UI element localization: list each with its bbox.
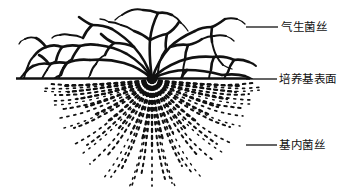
label-substrate-hyphae: 基内菌丝 <box>279 139 325 152</box>
label-aerial-hyphae: 气生菌丝 <box>281 21 327 34</box>
figure-container: 气生菌丝 培养基表面 基内菌丝 <box>0 0 343 193</box>
leader-lines-group <box>246 27 278 145</box>
label-medium-surface: 培养基表面 <box>279 73 337 86</box>
substrate-hyphae-group <box>41 80 262 190</box>
colony-origin-point <box>147 75 158 84</box>
aerial-hyphae-group <box>19 9 256 79</box>
